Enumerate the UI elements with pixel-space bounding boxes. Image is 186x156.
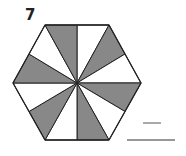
hexagon-fraction-figure	[0, 0, 186, 156]
